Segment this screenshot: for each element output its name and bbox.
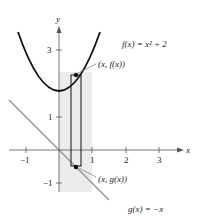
y-axis-label: y — [55, 14, 60, 24]
x-axis-arrow-icon — [177, 148, 184, 153]
x-tick-label: 2 — [124, 155, 129, 165]
y-tick-label: 1 — [48, 112, 53, 122]
y-tick-label: −1 — [43, 178, 53, 188]
x-tick-label: −1 — [20, 155, 30, 165]
x-tick-label: 3 — [157, 155, 162, 165]
y-axis-arrow-icon — [57, 26, 62, 33]
point-g — [74, 165, 78, 169]
y-tick-label: 3 — [47, 45, 52, 55]
f-label: f(x) = x² + 2 — [122, 39, 167, 49]
g-label: g(x) = −x — [128, 204, 163, 214]
x-axis-label: x — [185, 145, 190, 155]
x-tick-label: 1 — [90, 155, 95, 165]
figure-canvas: y x −1 1 2 3 3 1 −1 f(x) = x² + 2 g(x) =… — [0, 0, 197, 224]
point-f-label: (x, f(x)) — [98, 59, 125, 69]
point-f — [74, 73, 78, 77]
point-g-label: (x, g(x)) — [98, 174, 127, 184]
